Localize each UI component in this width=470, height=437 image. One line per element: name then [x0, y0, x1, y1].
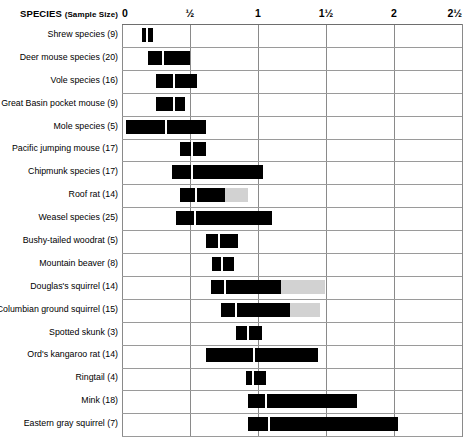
median-marker [194, 211, 196, 225]
chart-row: Pacific jumping mouse (17) [0, 138, 470, 161]
bar-track [122, 47, 462, 70]
median-marker [247, 326, 249, 340]
row-label: Weasel species (25) [38, 212, 118, 222]
bar-extended-range [225, 188, 249, 202]
row-label: Ord's kangaroo rat (14) [27, 349, 118, 359]
range-bar [176, 211, 271, 225]
bar-track [122, 138, 462, 161]
x-axis-tick-labels: 0½11½22½ [0, 7, 470, 23]
chart-rows: Shrew species (9)Deer mouse species (20)… [0, 24, 470, 436]
row-label: Shrew species (9) [48, 29, 118, 39]
chart-row: Shrew species (9) [0, 24, 470, 47]
range-bar [156, 74, 197, 88]
chart-row: Weasel species (25) [0, 207, 470, 230]
range-bar [221, 303, 290, 317]
median-marker [191, 165, 193, 179]
x-axis-tick-0: 0 [122, 7, 128, 19]
row-label: Ringtail (4) [75, 372, 118, 382]
row-label: Chipmunk species (17) [28, 166, 118, 176]
bar-track [122, 24, 462, 47]
chart-row: Mink (18) [0, 390, 470, 413]
row-label: Spotted skunk (3) [49, 327, 118, 337]
median-marker [195, 188, 197, 202]
median-marker [221, 257, 223, 271]
chart-row: Columbian ground squirrel (15) [0, 299, 470, 322]
row-label: Vole species (16) [51, 75, 118, 85]
row-label: Columbian ground squirrel (15) [0, 304, 118, 314]
chart-row: Ringtail (4) [0, 367, 470, 390]
median-marker [173, 74, 175, 88]
chart-row: Mountain beaver (8) [0, 253, 470, 276]
row-label: Mink (18) [81, 395, 118, 405]
range-bar [156, 97, 185, 111]
median-marker [191, 142, 193, 156]
range-bar [148, 51, 190, 65]
median-marker [146, 28, 148, 42]
range-bar [172, 165, 263, 179]
bar-track [122, 299, 462, 322]
x-axis-tick-1: 1 [255, 7, 261, 19]
bar-track [122, 230, 462, 253]
chart-row: Vole species (16) [0, 70, 470, 93]
x-axis-tick-: ½ [186, 7, 195, 19]
bar-extended-range [290, 303, 320, 317]
chart-row: Chipmunk species (17) [0, 161, 470, 184]
range-bar [206, 234, 238, 248]
range-bar [246, 371, 266, 385]
chart-row: Ord's kangaroo rat (14) [0, 344, 470, 367]
row-label: Great Basin pocket mouse (9) [1, 98, 118, 108]
chart-row: Douglas's squirrel (14) [0, 276, 470, 299]
median-marker [224, 280, 226, 294]
bar-track [122, 276, 462, 299]
bar-track [122, 116, 462, 139]
bar-track [122, 184, 462, 207]
median-marker [268, 417, 270, 431]
chart-row: Deer mouse species (20) [0, 47, 470, 70]
row-label: Pacific jumping mouse (17) [12, 143, 118, 153]
x-axis-tick-1: 1½ [319, 7, 334, 19]
bar-track [122, 367, 462, 390]
row-label: Eastern gray squirrel (7) [24, 418, 118, 428]
chart-row: Great Basin pocket mouse (9) [0, 93, 470, 116]
bar-track [122, 322, 462, 345]
median-marker [253, 348, 255, 362]
chart-row: Roof rat (14) [0, 184, 470, 207]
bar-track [122, 344, 462, 367]
bar-extended-range [281, 280, 325, 294]
range-bar [180, 188, 224, 202]
chart-row: Bushy-tailed woodrat (5) [0, 230, 470, 253]
row-label: Douglas's squirrel (14) [30, 281, 118, 291]
row-label: Deer mouse species (20) [20, 52, 118, 62]
chart-row: Mole species (5) [0, 116, 470, 139]
chart-row: Spotted skunk (3) [0, 322, 470, 345]
bar-track [122, 207, 462, 230]
median-marker [218, 234, 220, 248]
row-label: Bushy-tailed woodrat (5) [23, 235, 118, 245]
row-label: Mole species (5) [53, 121, 118, 131]
x-axis-tick-2: 2½ [447, 7, 462, 19]
range-bar [206, 348, 318, 362]
bar-track [122, 390, 462, 413]
range-bar [248, 417, 398, 431]
range-bar [211, 280, 281, 294]
chart-row: Eastern gray squirrel (7) [0, 413, 470, 436]
bar-track [122, 93, 462, 116]
row-label: Mountain beaver (8) [39, 258, 118, 268]
median-marker [252, 371, 254, 385]
median-marker [265, 394, 267, 408]
x-axis-tick-2: 2 [391, 7, 397, 19]
bar-track [122, 253, 462, 276]
bar-track [122, 413, 462, 436]
median-marker [162, 51, 164, 65]
median-marker [173, 97, 175, 111]
bar-track [122, 161, 462, 184]
range-bar [236, 326, 263, 340]
row-label: Roof rat (14) [69, 189, 118, 199]
median-marker [165, 120, 167, 134]
median-marker [235, 303, 237, 317]
range-bar [180, 142, 206, 156]
bar-track [122, 70, 462, 93]
range-bar [212, 257, 233, 271]
